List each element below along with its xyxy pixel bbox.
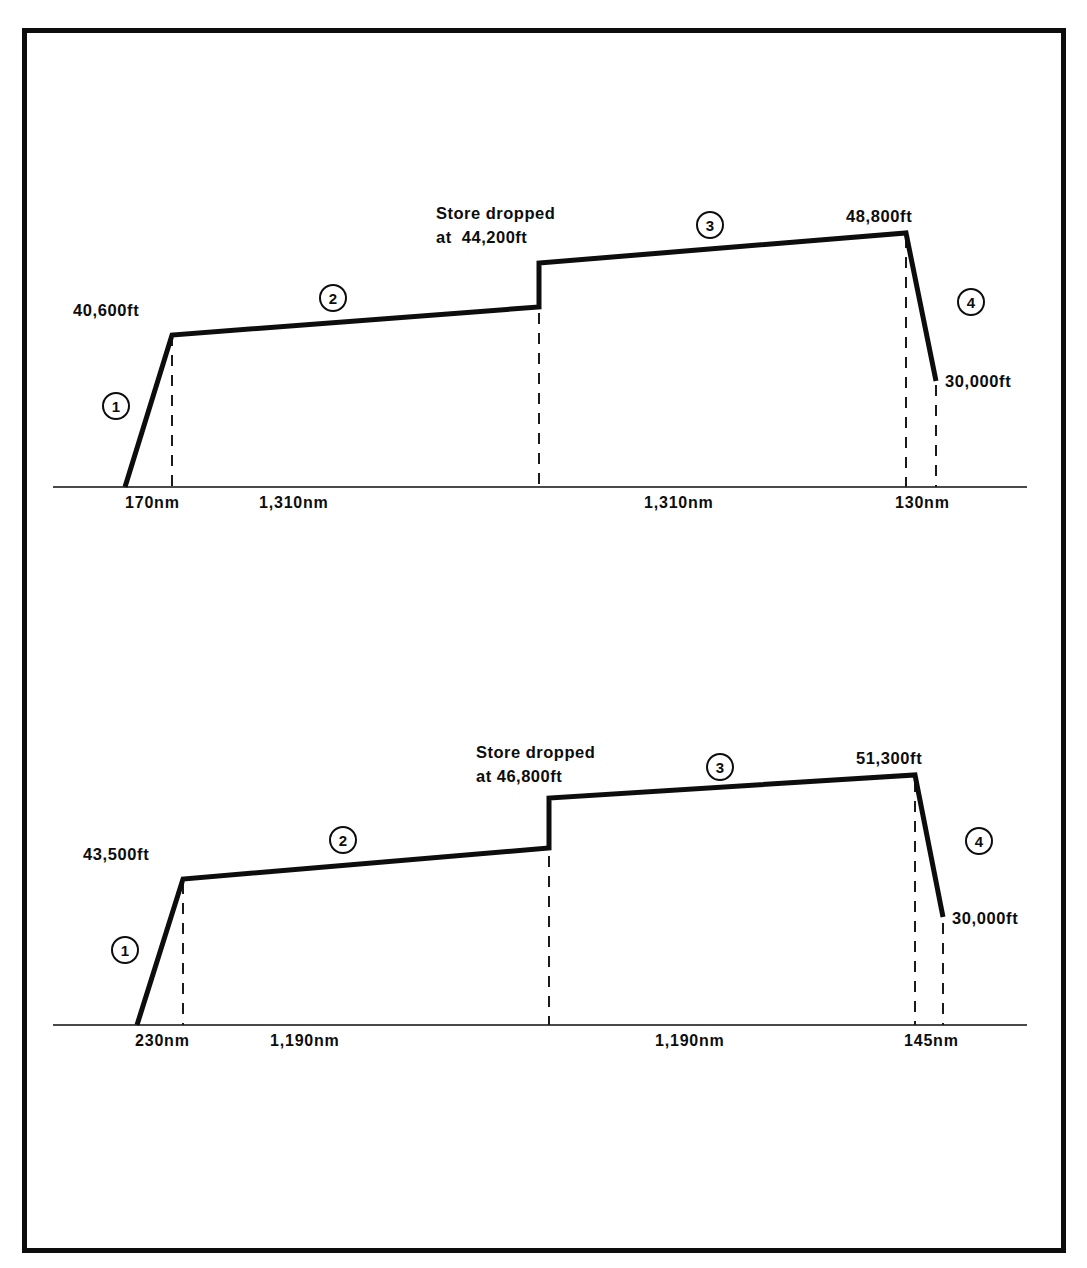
page-root: 40,600ft Store dropped at 44,200ft 48,80… — [0, 0, 1087, 1268]
chart-1-descent-altitude-label: 30,000ft — [945, 370, 1011, 392]
chart-2-segment-circle-3: 3 — [706, 753, 734, 781]
chart-2-segment-circle-4: 4 — [965, 827, 993, 855]
chart-2-apex-altitude-label: 51,300ft — [856, 747, 922, 769]
chart-1-store-dropped-line2: at 44,200ft — [436, 226, 527, 248]
chart-2-xtick-3: 1,190nm — [655, 1030, 725, 1052]
chart-2-xtick-1: 230nm — [135, 1030, 190, 1052]
chart-1-segment-circle-2: 2 — [319, 284, 347, 312]
chart-1-xtick-4: 130nm — [895, 492, 950, 514]
chart-1-store-dropped-line1: Store dropped — [436, 202, 555, 224]
chart-2-descent-altitude-label: 30,000ft — [952, 907, 1018, 929]
chart-2-store-dropped-line1: Store dropped — [476, 741, 595, 763]
chart-2-profile-trace — [137, 775, 943, 1025]
chart-2-segment-circle-2: 2 — [329, 826, 357, 854]
chart-1-profile-trace — [125, 233, 936, 487]
mission-profile-chart-1: 40,600ft Store dropped at 44,200ft 48,80… — [27, 33, 1061, 593]
chart-2-climb-altitude-label: 43,500ft — [83, 843, 149, 865]
chart-2-segment-circle-1: 1 — [111, 936, 139, 964]
chart-1-segment-circle-3: 3 — [696, 211, 724, 239]
diagram-frame: 40,600ft Store dropped at 44,200ft 48,80… — [22, 28, 1066, 1253]
mission-profile-chart-2: 43,500ft Store dropped at 46,800ft 51,30… — [27, 573, 1061, 1133]
chart-1-segment-circle-1: 1 — [102, 392, 130, 420]
chart-2-xtick-2: 1,190nm — [270, 1030, 340, 1052]
chart-1-segment-circle-4: 4 — [957, 288, 985, 316]
chart-1-xtick-1: 170nm — [125, 492, 180, 514]
chart-2-xtick-4: 145nm — [904, 1030, 959, 1052]
chart-1-xtick-3: 1,310nm — [644, 492, 714, 514]
chart-2-store-dropped-line2: at 46,800ft — [476, 765, 562, 787]
chart-1-apex-altitude-label: 48,800ft — [846, 205, 912, 227]
chart-1-climb-altitude-label: 40,600ft — [73, 299, 139, 321]
chart-1-xtick-2: 1,310nm — [259, 492, 329, 514]
